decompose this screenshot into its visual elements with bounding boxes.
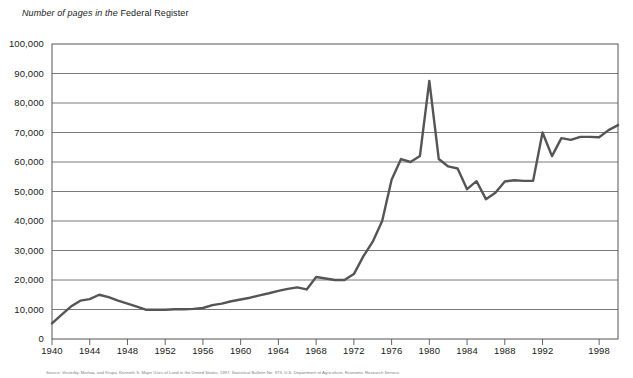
x-axis-tick-label: 1948 (107, 345, 147, 356)
gridlines (52, 74, 618, 310)
x-axis-tick-label: 1952 (145, 345, 185, 356)
y-axis-tick-label: 80,000 (0, 97, 44, 108)
x-axis-tick-label: 1992 (523, 345, 563, 356)
x-axis-tick-label: 1984 (447, 345, 487, 356)
x-axis-tick-label: 1964 (258, 345, 298, 356)
y-axis-tick-label: 60,000 (0, 156, 44, 167)
y-axis-tick-label: 30,000 (0, 245, 44, 256)
x-axis-tick-label: 1944 (70, 345, 110, 356)
y-axis-tick-label: 50,000 (0, 186, 44, 197)
x-axis-tick-label: 1976 (372, 345, 412, 356)
x-axis-tick-label: 1940 (32, 345, 72, 356)
x-axis-tick-label: 1988 (485, 345, 525, 356)
y-axis-tick-label: 100,000 (0, 38, 44, 49)
x-axis-tick-label: 1968 (296, 345, 336, 356)
x-axis-tick-label: 1956 (183, 345, 223, 356)
y-axis-tick-label: 40,000 (0, 215, 44, 226)
x-axis-tick-label: 1980 (409, 345, 449, 356)
y-axis-tick-label: 90,000 (0, 68, 44, 79)
y-axis-tick-label: 10,000 (0, 304, 44, 315)
y-axis-tick-label: 70,000 (0, 127, 44, 138)
x-axis-tick-label: 1972 (334, 345, 374, 356)
x-axis-tick-label: 1960 (221, 345, 261, 356)
y-axis-tick-label: 20,000 (0, 274, 44, 285)
source-note: Source: Vesterby, Marlow, and Krupa, Ken… (46, 370, 626, 378)
chart-figure: Number of pages in the Federal Register … (0, 0, 633, 378)
y-axis-tick-label: 0 (0, 333, 44, 344)
x-axis-tick-label: 1998 (579, 345, 619, 356)
data-series-line (52, 81, 618, 323)
plot-area (0, 0, 633, 378)
